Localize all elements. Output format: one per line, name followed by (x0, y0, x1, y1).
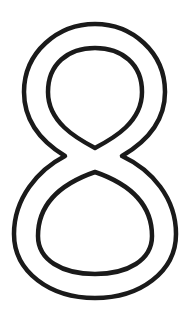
upper-counter (48, 48, 142, 148)
lower-counter (38, 172, 152, 274)
numeral-eight-outline-icon (0, 0, 186, 314)
outer-contour (14, 24, 176, 298)
outlined-numeral-canvas: 8 (0, 0, 186, 314)
